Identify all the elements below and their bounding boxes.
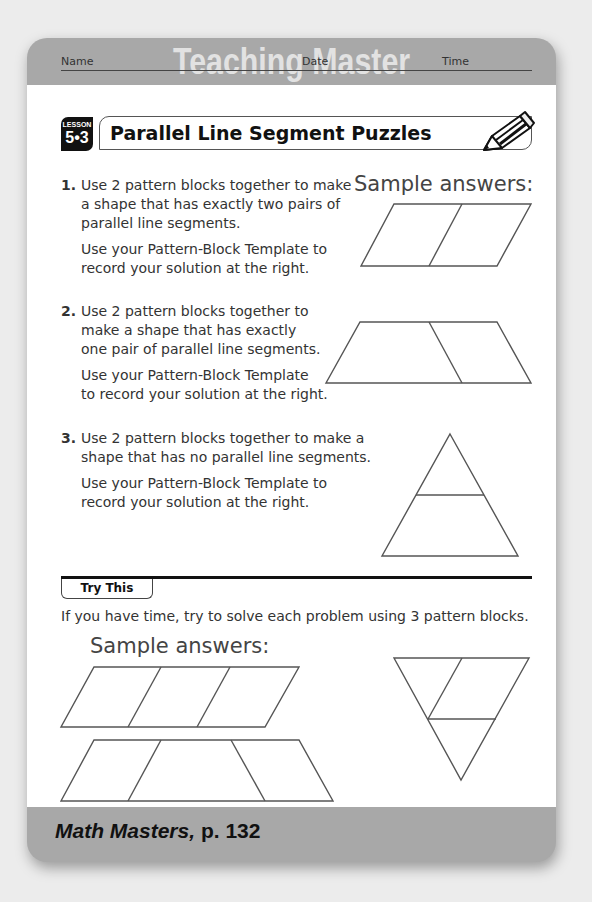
shape-three-rhombi [61, 667, 299, 727]
shape-two-rhombi [361, 204, 531, 266]
shape-triangle-trapezoid [382, 434, 518, 556]
shape-rhombus-trapezoid-rhombus [61, 740, 333, 801]
shape-trapezoid-rhombus [326, 322, 531, 383]
shape-inverted-triangle [394, 658, 529, 780]
answer-shapes [0, 0, 592, 902]
